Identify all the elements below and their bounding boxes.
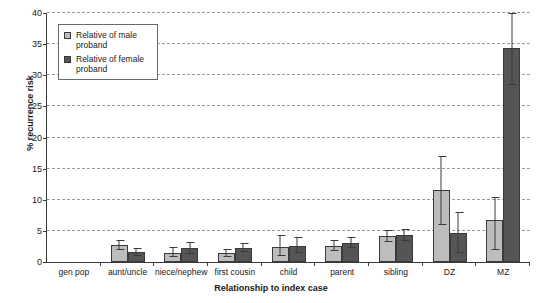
bars	[369, 14, 423, 262]
y-tick-label: 30	[32, 70, 42, 80]
bar-group: child	[262, 14, 316, 262]
error-bar	[511, 13, 512, 85]
x-tick-mark	[422, 262, 423, 266]
bars	[476, 14, 530, 262]
bars	[315, 14, 369, 262]
x-tick-label: sibling	[384, 267, 408, 277]
bar-slot	[235, 14, 252, 262]
y-tick-label: 15	[32, 164, 42, 174]
bar-slot	[181, 14, 198, 262]
y-tick-mark	[43, 262, 47, 263]
y-tick-label: 5	[37, 226, 42, 236]
y-tick-label: 20	[32, 133, 42, 143]
bar-slot	[486, 14, 503, 262]
legend: Relative of male proband Relative of fem…	[58, 24, 158, 80]
legend-swatch-male-icon	[64, 32, 71, 39]
error-bar	[136, 248, 137, 256]
bars	[423, 14, 477, 262]
bar-group: parent	[315, 14, 369, 262]
legend-label-male: Relative of male proband	[76, 30, 150, 50]
error-bar	[243, 243, 244, 252]
bar-group: first cousin	[208, 14, 262, 262]
y-tick-label: 35	[32, 39, 42, 49]
error-bar	[189, 242, 190, 254]
bar-group: MZ	[476, 14, 530, 262]
y-tick-label: 0	[37, 257, 42, 267]
bars	[208, 14, 262, 262]
bar-slot	[450, 14, 467, 262]
bars	[262, 14, 316, 262]
error-bar	[333, 240, 334, 251]
error-bar	[387, 230, 388, 242]
bar-slot	[218, 14, 235, 262]
error-bar	[226, 249, 227, 257]
x-tick-label: DZ	[444, 267, 455, 277]
y-tick-label: 10	[32, 195, 42, 205]
bar-slot	[289, 14, 306, 262]
legend-item-male: Relative of male proband	[64, 30, 150, 50]
y-tick-label: 40	[32, 8, 42, 18]
y-tick-label: 25	[32, 101, 42, 111]
error-bar	[119, 240, 120, 251]
recurrence-risk-bar-chart: % recurrence risk 0510152025303540 gen p…	[0, 0, 542, 303]
error-bar	[494, 197, 495, 250]
x-tick-label: gen pop	[58, 267, 89, 277]
bar-slot	[164, 14, 181, 262]
bar-slot	[272, 14, 289, 262]
bar-group: niece/nephew	[154, 14, 208, 262]
bars	[154, 14, 208, 262]
error-bar	[441, 156, 442, 224]
error-bar	[404, 229, 405, 241]
x-tick-mark	[314, 262, 315, 266]
legend-swatch-female-icon	[64, 56, 71, 63]
error-bar	[172, 247, 173, 257]
x-tick-label: child	[280, 267, 297, 277]
bar-group: DZ	[423, 14, 477, 262]
x-tick-mark	[153, 262, 154, 266]
bar-slot	[433, 14, 450, 262]
gridline: 40	[47, 12, 530, 13]
x-tick-mark	[100, 262, 101, 266]
x-tick-mark	[368, 262, 369, 266]
x-tick-mark	[475, 262, 476, 266]
x-tick-mark	[529, 262, 530, 266]
x-tick-label: niece/nephew	[155, 267, 207, 277]
legend-item-female: Relative of female proband	[64, 54, 150, 74]
x-axis-title: Relationship to index case	[0, 283, 542, 293]
x-tick-label: MZ	[497, 267, 509, 277]
error-bar	[297, 237, 298, 253]
bar-slot	[503, 14, 520, 262]
x-tick-label: aunt/uncle	[108, 267, 147, 277]
error-bar	[280, 235, 281, 256]
error-bar	[350, 237, 351, 248]
bar-slot	[379, 14, 396, 262]
bar-group: sibling	[369, 14, 423, 262]
error-bar	[458, 212, 459, 252]
bar-slot	[342, 14, 359, 262]
x-tick-label: first cousin	[215, 267, 256, 277]
bar-slot	[325, 14, 342, 262]
legend-label-female: Relative of female proband	[76, 54, 150, 74]
x-tick-mark	[261, 262, 262, 266]
x-tick-label: parent	[330, 267, 354, 277]
bar-slot	[396, 14, 413, 262]
x-tick-mark	[207, 262, 208, 266]
